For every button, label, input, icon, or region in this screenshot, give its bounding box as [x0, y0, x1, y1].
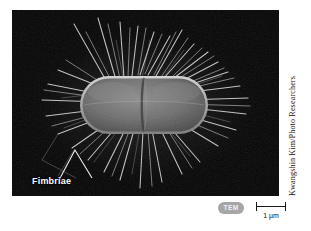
micrograph-figure: Fimbriae Kwangshin Kim/Photo Researchers…	[0, 0, 311, 231]
micrograph-image	[12, 10, 279, 196]
scale-bar-line	[256, 206, 286, 207]
scale-bar-label: 1 µm	[256, 212, 286, 219]
photo-credit: Kwangshin Kim/Photo Researchers	[287, 10, 299, 196]
tem-badge: TEM	[218, 202, 244, 214]
scale-bar: 1 µm	[256, 200, 286, 224]
scale-bar-cap-left	[256, 202, 257, 211]
fimbriae-annotation-label: Fimbriae	[32, 176, 71, 186]
micrograph-plate	[12, 10, 279, 196]
caption-strip: TEM 1 µm	[12, 198, 287, 226]
scale-bar-cap-right	[285, 202, 286, 211]
